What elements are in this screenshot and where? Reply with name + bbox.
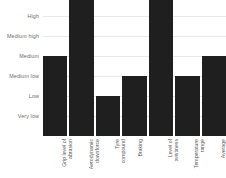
y-axis-tick-label: Very low: [18, 113, 39, 119]
x-axis-tick-label: Braking: [138, 139, 144, 157]
bar[interactable]: [69, 0, 93, 136]
bar[interactable]: [202, 56, 226, 136]
bar-slot: [202, 0, 226, 136]
bar-slot: [149, 0, 173, 136]
x-axis-tick: Tyrecompound: [96, 137, 120, 178]
bar-slot: [96, 0, 120, 136]
bar[interactable]: [175, 76, 199, 136]
x-axis-tick-label-line: Aerodynamic: [88, 139, 94, 169]
bar-slot: [43, 0, 67, 136]
x-axis-tick: Averagespeed: [202, 137, 226, 178]
y-axis-tick-label: Medium low: [9, 73, 39, 79]
x-axis-tick: Braking: [122, 137, 146, 178]
bar[interactable]: [96, 96, 120, 136]
y-axis-tick-label: High: [28, 13, 40, 19]
y-axis-tick-label: Medium: [19, 53, 39, 59]
bar[interactable]: [122, 76, 146, 136]
x-axis-tick-label-line: Braking: [138, 139, 144, 157]
x-axis: Grip level ofabrasionAerodynamicdownforc…: [43, 137, 226, 178]
x-axis-tick-label: Averagespeed: [220, 139, 226, 158]
bar[interactable]: [149, 0, 173, 136]
y-axis-tick-label: Medium high: [7, 33, 39, 39]
bar-slot: [69, 0, 93, 136]
bar-slot: [122, 0, 146, 136]
y-axis: Very lowLowMedium lowMediumMedium highHi…: [0, 0, 43, 136]
x-axis-tick: Level oftwistiness: [149, 137, 173, 178]
plot-area: [43, 0, 226, 136]
y-axis-tick-label: Low: [29, 93, 39, 99]
bar-chart: Very lowLowMedium lowMediumMedium highHi…: [0, 0, 226, 178]
x-axis-tick: Aerodynamicdownforce: [69, 137, 93, 178]
x-axis-tick-label-line: Level of: [167, 139, 173, 162]
x-axis-tick: Grip level ofabrasion: [43, 137, 67, 178]
bar-slot: [175, 0, 199, 136]
x-axis-tick-label-line: Average: [220, 139, 226, 158]
x-axis-tick: Temperaturerange: [175, 137, 199, 178]
bar[interactable]: [43, 56, 67, 136]
